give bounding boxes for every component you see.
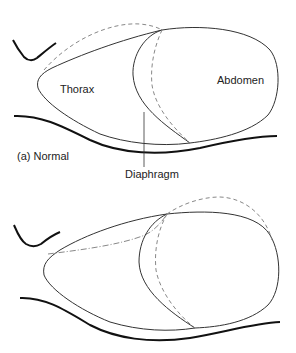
diaphragm-dashed-b: [155, 214, 195, 328]
back-line-a: [14, 116, 277, 153]
thorax-label: Thorax: [60, 84, 94, 95]
chin-outline-b: [14, 225, 60, 246]
figure-b: [14, 197, 280, 340]
thorax-dashdot-b: [48, 214, 167, 254]
abdomen-label: Abdomen: [217, 75, 264, 86]
figure-a-normal: [13, 24, 278, 167]
figure-a-caption: (a) Normal: [17, 151, 69, 162]
diaphragm-label: Diaphragm: [125, 169, 179, 180]
back-line-b: [20, 298, 280, 340]
thorax-outline-b: [44, 214, 195, 330]
diaphragm-dashed-a: [152, 30, 190, 143]
chin-outline-a: [13, 40, 56, 60]
abdomen-dashed-outer-b: [167, 197, 272, 240]
